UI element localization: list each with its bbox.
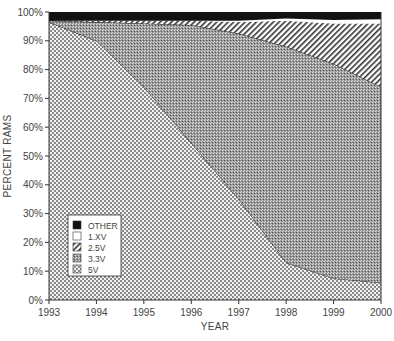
y-tick-label: 0% [29, 295, 44, 306]
legend-label: 2.5V [88, 243, 106, 253]
x-tick-label: 1993 [38, 307, 61, 318]
x-axis-title: YEAR [201, 321, 229, 332]
x-tick-label: 1999 [322, 307, 345, 318]
x-tick-label: 1998 [275, 307, 298, 318]
x-tick-label: 1995 [133, 307, 156, 318]
legend-swatch-5v [73, 265, 81, 273]
legend-swatch-3-3v [73, 254, 81, 262]
y-tick-label: 100% [17, 7, 43, 18]
x-tick-label: 1997 [228, 307, 251, 318]
x-tick-label: 1996 [180, 307, 203, 318]
y-axis-title: PERCENT RAMS [2, 115, 13, 198]
legend-label: 3.3V [88, 254, 106, 264]
y-tick-label: 80% [23, 64, 43, 75]
y-tick-label: 50% [23, 151, 43, 162]
legend-label: 1.XV [88, 232, 107, 242]
y-tick-label: 40% [23, 179, 43, 190]
legend-swatch-1-xv [73, 232, 81, 240]
y-tick-label: 30% [23, 208, 43, 219]
stacked-area-chart: OTHER1.XV2.5V3.3V5V 0%10%20%30%40%50%60%… [0, 0, 394, 341]
y-tick-label: 20% [23, 237, 43, 248]
legend-label: OTHER [88, 221, 118, 231]
legend-swatch-2-5v [73, 243, 81, 251]
x-tick-label: 2000 [370, 307, 393, 318]
x-tick-label: 1994 [85, 307, 108, 318]
y-tick-label: 90% [23, 35, 43, 46]
y-tick-label: 10% [23, 266, 43, 277]
y-tick-label: 70% [23, 93, 43, 104]
legend-label: 5V [88, 265, 99, 275]
area-other [49, 12, 381, 21]
y-tick-label: 60% [23, 122, 43, 133]
legend-swatch-other [73, 221, 81, 229]
